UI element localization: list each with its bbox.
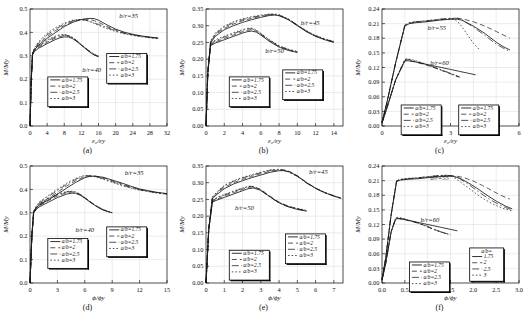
svg-text:0.25: 0.25	[192, 196, 203, 203]
svg-text:0.1: 0.1	[20, 99, 28, 106]
svg-text:0.10: 0.10	[192, 246, 203, 253]
svg-text:0.10: 0.10	[192, 89, 203, 96]
svg-text:12: 12	[78, 129, 84, 136]
legend-entry-label: a/b=2	[297, 76, 311, 82]
legend: a/b=1.7522.53	[470, 248, 505, 283]
panel-caption: (a)	[0, 146, 175, 155]
svg-text:6: 6	[259, 129, 262, 136]
axis-ticks: 036912150.00.10.20.30.40.5	[20, 162, 171, 293]
svg-text:14: 14	[331, 129, 338, 136]
legend-entry-label: a/b=1.75	[299, 234, 320, 240]
panel-caption: (c)	[352, 146, 527, 155]
legend: a/b=1.75a/b=2a/b=2.5a/b=3	[409, 262, 450, 293]
plot-area: 0.00.51.01.52.02.53.00.000.030.060.090.1…	[352, 157, 527, 313]
plot-area: 01234560.000.030.060.090.120.150.180.210…	[352, 0, 527, 156]
group-annotation: b/r=50	[235, 204, 254, 211]
legend-entry-label: a/b=2.5	[415, 117, 433, 123]
group-annotation: b/r=40	[75, 226, 94, 233]
svg-text:0.21: 0.21	[368, 177, 379, 184]
legend-entry-label: a/b=2	[299, 240, 313, 246]
svg-text:2.0: 2.0	[469, 286, 477, 293]
legend-entry-label: 1.75	[484, 253, 494, 259]
svg-text:0: 0	[204, 286, 207, 293]
svg-text:8: 8	[63, 129, 66, 136]
svg-text:2: 2	[223, 129, 226, 136]
svg-text:0.18: 0.18	[368, 34, 379, 41]
svg-text:8: 8	[277, 129, 280, 136]
legend-entry-label: a/b=3	[243, 268, 257, 274]
svg-text:0.1: 0.1	[20, 256, 28, 263]
svg-text:0.00: 0.00	[192, 122, 203, 129]
svg-text:0.3: 0.3	[20, 209, 28, 216]
legend-entry-label: a/b=2.5	[473, 117, 491, 123]
svg-text:0.05: 0.05	[192, 105, 203, 112]
legend-entry-label: a/b=2.5	[243, 89, 261, 95]
group-annotation: b/r=45	[301, 19, 320, 26]
svg-text:0.4: 0.4	[20, 29, 29, 36]
svg-text:0.30: 0.30	[192, 179, 203, 186]
svg-text:0.35: 0.35	[192, 162, 203, 169]
legend-entry-label: a/b=2	[473, 111, 487, 117]
svg-text:2: 2	[241, 286, 244, 293]
legend-entry-label: a/b=1.75	[415, 105, 436, 111]
legend-entry-label: a/b=2	[243, 83, 257, 89]
x-axis-label: ε₀/εy	[444, 137, 458, 145]
svg-text:0.25: 0.25	[192, 39, 203, 46]
plot-frame	[206, 166, 343, 283]
group-annotation: b/r=60	[421, 216, 440, 223]
y-axis-label: M/My	[354, 215, 362, 234]
svg-text:0.20: 0.20	[192, 55, 203, 62]
svg-text:2.5: 2.5	[492, 286, 500, 293]
svg-text:0.0: 0.0	[378, 286, 386, 293]
svg-text:0.18: 0.18	[368, 191, 379, 198]
curve	[206, 170, 341, 283]
legend-entry-label: a/b=1.75	[62, 77, 83, 83]
y-axis-label: M/My	[2, 58, 10, 77]
legend: a/b=1.75a/b=2a/b=2.5a/b=3	[48, 77, 89, 108]
legend-entry-label: a/b=3	[62, 257, 76, 263]
legend: a/b=1.75a/b=2a/b=2.5a/b=3	[459, 105, 500, 136]
svg-text:16: 16	[95, 129, 101, 136]
legend-entry-label: a/b=2.5	[62, 251, 80, 257]
y-axis-label: M/My	[178, 58, 186, 77]
panel-caption: (e)	[176, 303, 351, 312]
legend-entry-label: a/b=1.75	[243, 250, 264, 256]
svg-text:0.0: 0.0	[20, 279, 28, 286]
group-annotation: b/r=35	[119, 12, 138, 19]
svg-text:0.20: 0.20	[192, 212, 203, 219]
legend: a/b=1.75a/b=2a/b=2.5a/b=3	[229, 77, 270, 108]
plot-frame	[206, 9, 343, 126]
svg-text:3: 3	[259, 286, 262, 293]
x-axis-label: ϕ/ϕy	[268, 294, 281, 302]
x-axis-label: ε₀/εy	[268, 137, 282, 145]
svg-text:0.00: 0.00	[368, 122, 379, 129]
plot-area: 012345670.000.050.100.150.200.250.300.35…	[176, 157, 351, 313]
svg-text:7: 7	[332, 286, 336, 293]
svg-text:0: 0	[204, 129, 207, 136]
group-annotation: b/r=55	[430, 174, 449, 181]
legend-entry-label: a/b=1.75	[473, 105, 494, 111]
y-axis-label: M/My	[354, 58, 362, 77]
plot-area: 0481216202428320.00.10.20.30.40.5ε₀/εyM/…	[0, 0, 175, 156]
svg-text:6: 6	[517, 129, 520, 136]
chart-panel-e: 012345670.000.050.100.150.200.250.300.35…	[176, 157, 351, 313]
svg-text:0.24: 0.24	[368, 162, 380, 169]
legend-entry-label: a/b=3	[473, 123, 487, 129]
x-axis-label: ε₀/εy	[92, 137, 106, 145]
svg-text:0.00: 0.00	[368, 279, 379, 286]
svg-text:6: 6	[83, 286, 86, 293]
svg-text:0.00: 0.00	[192, 279, 203, 286]
svg-text:0.15: 0.15	[192, 229, 203, 236]
svg-text:1: 1	[223, 286, 226, 293]
legend-entry-label: a/b=1.75	[243, 77, 264, 83]
svg-text:0.4: 0.4	[20, 186, 29, 193]
svg-text:0.21: 0.21	[368, 20, 379, 27]
legend-entry-label: a/b=2.5	[121, 239, 139, 245]
svg-text:20: 20	[112, 129, 118, 136]
legend: a/b=1.75a/b=2a/b=2.5a/b=3	[283, 69, 324, 100]
legend-entry-label: a/b=2	[243, 256, 257, 262]
legend-entry-label: 2.5	[484, 266, 491, 272]
chart-panel-d: 036912150.00.10.20.30.40.5ϕ/ϕyM/Myb/r=35…	[0, 157, 175, 313]
svg-text:4: 4	[241, 129, 245, 136]
legend-entry-label: a/b=2	[62, 83, 76, 89]
